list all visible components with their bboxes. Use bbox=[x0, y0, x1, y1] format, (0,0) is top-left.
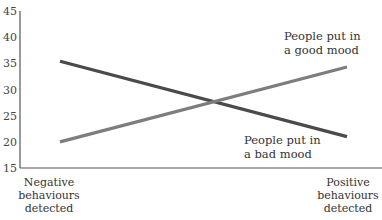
x-axis-labels: NegativebehavioursdetectedPositivebehavi… bbox=[18, 176, 379, 215]
x-tick-label: detected bbox=[324, 202, 373, 215]
y-tick-label: 20 bbox=[3, 136, 17, 149]
series-lines bbox=[60, 61, 347, 142]
y-tick-label: 15 bbox=[3, 162, 17, 175]
x-tick-label: detected bbox=[25, 202, 74, 215]
x-tick-label: Negative bbox=[24, 176, 74, 189]
x-tick-label: behaviours bbox=[317, 189, 379, 202]
chart: 15202530354045 Negativebehavioursdetecte… bbox=[0, 0, 382, 220]
series-annotation: a bad mood bbox=[244, 147, 312, 161]
x-tick-label: behaviours bbox=[18, 189, 80, 202]
y-tick-label: 45 bbox=[3, 5, 17, 18]
series-annotation: a good mood bbox=[284, 43, 359, 57]
series-annotations: People put ina bad moodPeople put ina go… bbox=[244, 29, 361, 161]
y-axis-ticks: 15202530354045 bbox=[3, 5, 17, 175]
series-line-bad-mood bbox=[60, 61, 347, 136]
series-line-good-mood bbox=[60, 67, 347, 142]
y-tick-label: 25 bbox=[3, 110, 17, 123]
series-annotation: People put in bbox=[284, 29, 361, 43]
series-annotation: People put in bbox=[244, 133, 321, 147]
y-tick-label: 40 bbox=[3, 31, 17, 44]
x-tick-label: Positive bbox=[326, 176, 369, 189]
y-tick-label: 35 bbox=[3, 57, 17, 70]
y-tick-label: 30 bbox=[3, 84, 17, 97]
